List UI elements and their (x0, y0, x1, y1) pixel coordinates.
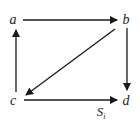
node-c: c (10, 94, 16, 108)
graph-diagram: a b c d Si (0, 0, 140, 122)
caption-subscript: i (103, 112, 105, 121)
node-b: b (123, 13, 130, 27)
node-d: d (123, 94, 130, 108)
graph-edges (0, 0, 140, 122)
graph-caption: Si (97, 105, 106, 122)
node-a: a (10, 13, 17, 27)
edge-b-c (26, 29, 115, 95)
